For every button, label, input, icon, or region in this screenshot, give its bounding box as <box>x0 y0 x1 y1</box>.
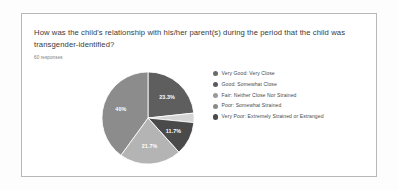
legend-item-label: Fair: Neither Close Nor Strained <box>222 92 297 99</box>
pie-slice-value-label: 11.7% <box>166 128 182 134</box>
pie-slice-value-label: 21.7% <box>142 143 158 149</box>
legend-item-label: Very Good: Very Close <box>222 70 275 77</box>
legend-item[interactable]: Good: Somewhat Close <box>213 81 363 88</box>
legend-item-label: Very Poor: Extremely Strained or Estrang… <box>222 113 324 120</box>
legend-item[interactable]: Very Poor: Extremely Strained or Estrang… <box>213 113 363 120</box>
pie-slice-value-label: 23.3% <box>159 94 175 100</box>
legend-color-dot-icon <box>213 104 218 109</box>
pie-slice-value-label: 40% <box>115 106 126 112</box>
pie-chart: 23.3%11.7%21.7%40% <box>100 70 196 166</box>
question-block: How was the child's relationship with hi… <box>34 27 354 61</box>
chart-legend: Very Good: Very CloseGood: Somewhat Clos… <box>213 70 363 124</box>
response-count: 60 responses <box>34 54 354 61</box>
pie-chart-svg: 23.3%11.7%21.7%40% <box>100 70 196 166</box>
legend-item[interactable]: Very Good: Very Close <box>213 70 363 77</box>
pie-slice-group <box>102 72 194 164</box>
legend-item[interactable]: Fair: Neither Close Nor Strained <box>213 92 363 99</box>
question-title-line-2: transgender-identified? <box>34 39 354 51</box>
legend-item[interactable]: Poor: Somewhat Strained <box>213 102 363 109</box>
screenshot-root: How was the child's relationship with hi… <box>0 0 398 190</box>
legend-item-label: Poor: Somewhat Strained <box>222 102 282 109</box>
legend-color-dot-icon <box>213 93 218 98</box>
legend-color-dot-icon <box>213 71 218 76</box>
question-title-line-1: How was the child's relationship with hi… <box>34 27 354 39</box>
legend-color-dot-icon <box>213 82 218 87</box>
legend-color-dot-icon <box>213 114 218 119</box>
survey-result-card: How was the child's relationship with hi… <box>21 13 377 177</box>
chart-area: 23.3%11.7%21.7%40% Very Good: Very Close… <box>22 66 378 178</box>
legend-item-label: Good: Somewhat Close <box>222 81 277 88</box>
